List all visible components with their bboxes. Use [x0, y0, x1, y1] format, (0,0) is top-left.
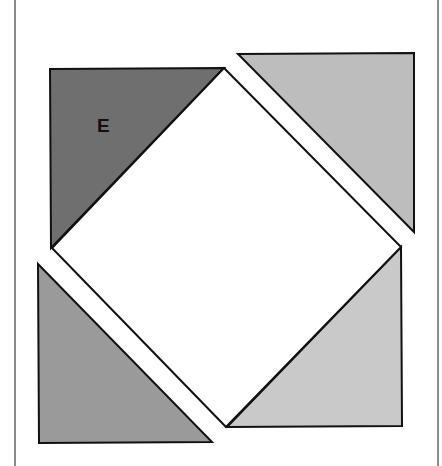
square-and-triangles-diagram: E — [0, 0, 442, 466]
label-e: E — [97, 115, 110, 136]
